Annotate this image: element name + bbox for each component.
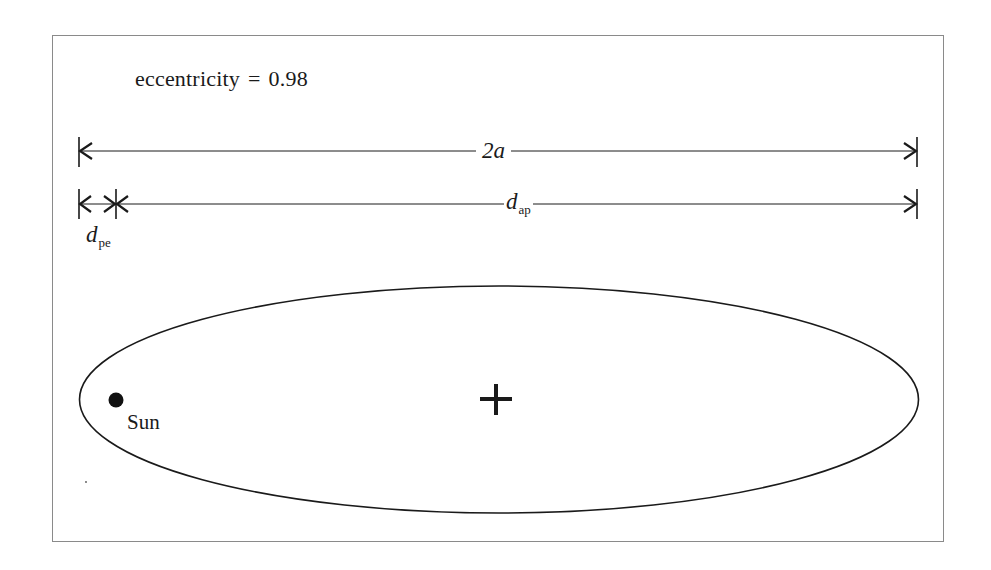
major-axis-label: 2a [476, 139, 511, 162]
center-plus-icon [480, 384, 512, 415]
aphelion-distance-label: dap [504, 190, 533, 213]
distance-dimensions [79, 189, 917, 219]
sun-label: Sun [127, 412, 160, 433]
perihelion-symbol: d [86, 222, 98, 247]
eccentricity-label: eccentricity=0.98 [135, 68, 308, 90]
perihelion-distance-label: dpe [86, 223, 111, 246]
eccentricity-value: 0.98 [269, 66, 308, 91]
aphelion-symbol: d [506, 189, 518, 214]
aphelion-subscript: ap [519, 202, 531, 217]
perihelion-subscript: pe [99, 235, 111, 250]
sun-icon [109, 393, 124, 408]
speck-mark [85, 481, 87, 483]
equals-sign: = [248, 66, 261, 91]
eccentricity-text: eccentricity [135, 66, 240, 91]
